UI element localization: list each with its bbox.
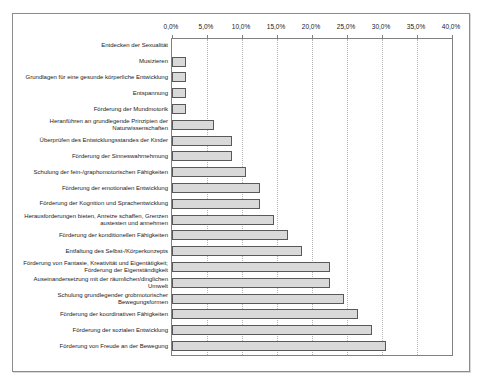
bar: [172, 278, 330, 288]
chart-row: Entfaltung des Selbst-/Körperkonzepts: [13, 243, 469, 259]
bar: [172, 294, 344, 304]
chart-row: Förderung der koordinativen Fähigkeiten: [13, 307, 469, 323]
category-label: Entdecken der Sexualität: [15, 38, 168, 54]
chart-row: Förderung der emotionalen Entwicklung: [13, 180, 469, 196]
bar: [172, 325, 372, 335]
category-label: Förderung der koordinativen Fähigkeiten: [15, 307, 168, 323]
chart-row: Entspannung: [13, 85, 469, 101]
bar: [172, 230, 288, 240]
bar: [172, 151, 232, 161]
chart-row: Überprüfen des Entwicklungsstandes der K…: [13, 133, 469, 149]
category-label: Förderung der konditionellen Fähigkeiten: [15, 228, 168, 244]
chart-row: Förderung der Sinneswahrnehmung: [13, 149, 469, 165]
bar: [172, 246, 302, 256]
chart-row: Förderung von Fantasie, Kreativität und …: [13, 259, 469, 275]
category-label: Förderung der sozialen Entwicklung: [15, 322, 168, 338]
chart-row: Grundlagen für eine gesunde körperliche …: [13, 70, 469, 86]
category-label: Überprüfen des Entwicklungsstandes der K…: [15, 133, 168, 149]
bar: [172, 57, 186, 67]
category-label: Herausforderungen bieten, Anreize schaff…: [15, 212, 168, 228]
bar: [172, 120, 214, 130]
bar: [172, 72, 186, 82]
chart-row: Herausforderungen bieten, Anreize schaff…: [13, 212, 469, 228]
category-label: Schulung der fein-/graphomotorischen Fäh…: [15, 164, 168, 180]
bar: [172, 136, 232, 146]
chart-frame: 0,0%5,0%10,0%15,0%20,0%25,0%30,0%35,0%40…: [12, 13, 470, 372]
bar: [172, 199, 260, 209]
bar: [172, 341, 386, 351]
chart-row: Musizieren: [13, 54, 469, 70]
category-label: Auseinandersetzung mit der räumlichen/di…: [15, 275, 168, 291]
category-label: Heranführen an grundlegende Prinzipien d…: [15, 117, 168, 133]
category-label: Förderung der Mundmotorik: [15, 101, 168, 117]
bar: [172, 167, 246, 177]
bar: [172, 104, 186, 114]
category-label: Förderung von Fantasie, Kreativität und …: [15, 259, 168, 275]
category-label: Grundlagen für eine gesunde körperliche …: [15, 70, 168, 86]
chart-row: Schulung der fein-/graphomotorischen Fäh…: [13, 164, 469, 180]
chart-row: Schulung grundlegender grobmotorischer B…: [13, 291, 469, 307]
chart-row: Förderung der konditionellen Fähigkeiten: [13, 228, 469, 244]
category-label: Schulung grundlegender grobmotorischer B…: [15, 291, 168, 307]
bar: [172, 183, 260, 193]
chart-row: Förderung der sozialen Entwicklung: [13, 322, 469, 338]
category-label: Förderung der emotionalen Entwicklung: [15, 180, 168, 196]
chart-row: Heranführen an grundlegende Prinzipien d…: [13, 117, 469, 133]
category-label: Entfaltung des Selbst-/Körperkonzepts: [15, 243, 168, 259]
bar: [172, 215, 274, 225]
category-label: Musizieren: [15, 54, 168, 70]
chart-row: Förderung der Mundmotorik: [13, 101, 469, 117]
category-label: Förderung der Kognition und Sprachentwic…: [15, 196, 168, 212]
category-label: Förderung der Sinneswahrnehmung: [15, 149, 168, 165]
chart-row: Auseinandersetzung mit der räumlichen/di…: [13, 275, 469, 291]
rows: Entdecken der SexualitätMusizierenGrundl…: [13, 14, 469, 371]
chart-row: Förderung der Kognition und Sprachentwic…: [13, 196, 469, 212]
chart-row: Entdecken der Sexualität: [13, 38, 469, 54]
bar: [172, 262, 330, 272]
bar: [172, 88, 186, 98]
bar: [172, 309, 358, 319]
category-label: Entspannung: [15, 85, 168, 101]
chart-row: Förderung von Freude an der Bewegung: [13, 338, 469, 354]
category-label: Förderung von Freude an der Bewegung: [15, 338, 168, 354]
